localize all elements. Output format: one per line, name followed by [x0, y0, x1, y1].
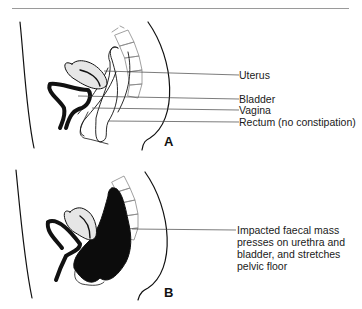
uterus: [65, 61, 107, 89]
abdomen-outline: [20, 22, 34, 148]
panel-a-drawing: [20, 22, 170, 150]
panel-letter-b: B: [164, 285, 173, 300]
label-rectum: Rectum (no constipation): [239, 116, 356, 128]
uterus: [64, 208, 96, 240]
label-impacted-faecal-mass: Impacted faecal mass presses on urethra …: [237, 224, 352, 272]
back-outline: [142, 22, 170, 150]
abdomen-outline: [16, 170, 32, 298]
label-uterus: Uterus: [239, 69, 270, 81]
panel-b-drawing: [16, 170, 167, 300]
rectum: [96, 47, 118, 142]
back-outline: [138, 172, 167, 300]
sacrum-icon: [112, 26, 142, 98]
panel-b-leaders: [132, 229, 236, 230]
label-vagina: Vagina: [239, 104, 271, 116]
bladder: [49, 84, 90, 128]
panel-letter-a: A: [164, 134, 173, 149]
